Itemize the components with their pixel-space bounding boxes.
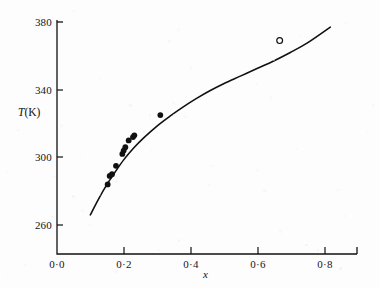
- axis-spine-path: [57, 20, 357, 254]
- axis-spines: [57, 20, 357, 254]
- filled-marker-group: [105, 112, 163, 187]
- x-tick-label-0-6: 0·6: [238, 258, 278, 270]
- y-axis-title: T(K): [18, 106, 40, 118]
- figure-container: 380 340 300 260 0·0 0·2 0·4 0·6 0·8 T(K)…: [0, 0, 380, 288]
- y-tick-label-260: 260: [8, 219, 52, 231]
- data-point-filled: [157, 112, 163, 118]
- y-axis-ticks: [57, 90, 63, 225]
- data-point-filled: [131, 132, 137, 138]
- data-point-filled: [122, 144, 128, 150]
- x-tick-label-0-2: 0·2: [104, 258, 144, 270]
- y-tick-label-340: 340: [8, 84, 52, 96]
- y-axis-title-unit: (K): [24, 106, 40, 118]
- open-marker-group: [277, 38, 283, 44]
- data-point-filled: [113, 163, 119, 169]
- fitted-curve-path: [90, 27, 330, 215]
- x-axis-title-symbol: x: [203, 268, 208, 280]
- fitted-curve: [90, 27, 330, 215]
- x-axis-ticks: [124, 247, 325, 254]
- y-tick-label-300: 300: [8, 151, 52, 163]
- y-tick-label-380: 380: [8, 16, 52, 28]
- x-axis-title: x: [203, 268, 208, 280]
- x-tick-label-0-8: 0·8: [305, 258, 345, 270]
- x-tick-label-0-0: 0·0: [37, 258, 77, 270]
- data-point-filled: [109, 171, 115, 177]
- data-point-filled: [105, 182, 111, 188]
- data-point-open: [277, 38, 283, 44]
- plot-area: [0, 0, 380, 288]
